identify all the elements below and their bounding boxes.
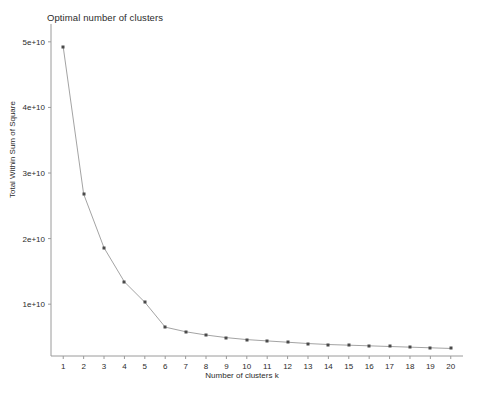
y-tick-label: 1e+10 bbox=[23, 300, 45, 309]
data-point-marker bbox=[123, 280, 126, 283]
x-tick-label: 9 bbox=[224, 362, 228, 371]
x-tick-label: 6 bbox=[163, 362, 167, 371]
axis-lines bbox=[51, 24, 463, 356]
data-point-marker bbox=[184, 330, 187, 333]
x-tick-label: 1 bbox=[61, 362, 65, 371]
x-tick-label: 13 bbox=[304, 362, 313, 371]
data-point-marker bbox=[368, 344, 371, 347]
series-line bbox=[63, 47, 451, 348]
x-tick-label: 11 bbox=[263, 362, 271, 371]
data-point-marker bbox=[306, 342, 309, 345]
x-tick-label: 17 bbox=[385, 362, 394, 371]
data-point-marker bbox=[388, 345, 391, 348]
data-point-marker bbox=[82, 193, 85, 196]
elbow-plot-chart: Optimal number of clusters Total Within … bbox=[0, 0, 484, 394]
data-point-marker bbox=[164, 326, 167, 329]
data-point-marker bbox=[286, 341, 289, 344]
x-tick-label: 12 bbox=[283, 362, 292, 371]
y-tick-label: 2e+10 bbox=[23, 234, 45, 243]
tick-marks bbox=[48, 42, 451, 359]
data-point-marker bbox=[449, 347, 452, 350]
data-point-marker bbox=[143, 301, 146, 304]
data-point-marker bbox=[429, 346, 432, 349]
y-tick-label: 4e+10 bbox=[23, 103, 45, 112]
data-point-marker bbox=[347, 344, 350, 347]
data-point-marker bbox=[408, 346, 411, 349]
x-tick-label: 19 bbox=[426, 362, 435, 371]
x-tick-label: 10 bbox=[242, 362, 251, 371]
x-tick-label: 16 bbox=[365, 362, 374, 371]
x-tick-label: 5 bbox=[143, 362, 147, 371]
data-point-marker bbox=[245, 338, 248, 341]
x-tick-label: 7 bbox=[183, 362, 187, 371]
data-point-marker bbox=[62, 46, 65, 49]
x-tick-label: 2 bbox=[81, 362, 85, 371]
data-point-marker bbox=[327, 343, 330, 346]
x-tick-label: 14 bbox=[324, 362, 333, 371]
x-tick-label: 4 bbox=[122, 362, 126, 371]
chart-axes-and-series bbox=[0, 0, 484, 394]
data-point-marker bbox=[225, 336, 228, 339]
x-tick-label: 18 bbox=[406, 362, 415, 371]
x-tick-label: 8 bbox=[204, 362, 208, 371]
data-point-marker bbox=[103, 246, 106, 249]
y-tick-label: 3e+10 bbox=[23, 169, 45, 178]
x-tick-label: 20 bbox=[446, 362, 455, 371]
data-point-marker bbox=[205, 334, 208, 337]
data-point-marker bbox=[266, 339, 269, 342]
y-tick-label: 5e+10 bbox=[23, 37, 45, 46]
x-tick-label: 3 bbox=[102, 362, 106, 371]
x-tick-label: 15 bbox=[344, 362, 353, 371]
